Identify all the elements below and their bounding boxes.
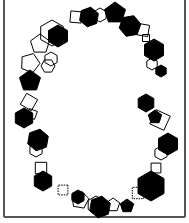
filled-pentagon-shape (120, 199, 133, 212)
outline-hexagon-shape (45, 52, 57, 66)
filled-hexagon-shape (159, 133, 178, 155)
shape-ring (15, 2, 177, 218)
filled-hexagon-shape (119, 16, 141, 37)
filled-hexagon-shape (138, 171, 164, 201)
outline-square-shape (58, 185, 68, 195)
filled-pentagon-shape (20, 70, 41, 90)
filled-hexagon-shape (34, 171, 51, 191)
outline-hexagon-shape (41, 60, 55, 72)
shape-ring-diagram (0, 0, 189, 223)
filled-hexagon-shape (15, 108, 32, 128)
filled-hexagon-shape (138, 94, 154, 112)
filled-pentagon-shape (148, 110, 161, 123)
outline-pentagon-shape (22, 54, 40, 73)
filled-hexagon-shape (145, 39, 164, 61)
filled-hexagon-shape (72, 190, 84, 204)
filled-hexagon-shape (90, 196, 111, 218)
filled-hexagon-shape (156, 65, 166, 77)
filled-hexagon-shape (28, 129, 49, 151)
filled-hexagon-shape (49, 25, 68, 47)
